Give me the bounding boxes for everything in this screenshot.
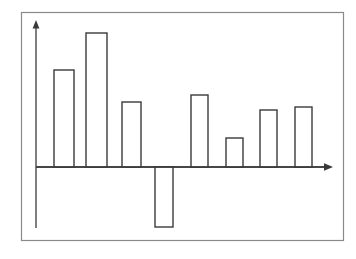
bar-8 xyxy=(295,107,312,167)
bar-3 xyxy=(122,102,141,167)
figure-root xyxy=(0,0,356,259)
bar-5 xyxy=(191,95,208,167)
bar-2 xyxy=(86,33,107,167)
bar-chart xyxy=(0,0,356,259)
bar-6 xyxy=(226,138,243,167)
bar-7 xyxy=(260,110,277,167)
bar-1 xyxy=(54,70,74,167)
bar-4 xyxy=(155,167,173,227)
